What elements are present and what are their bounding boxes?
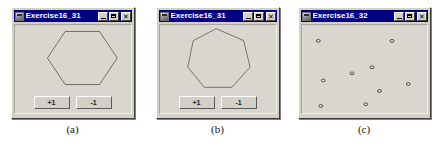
figure-row: Exercise16_31 ✕ [0, 0, 438, 148]
titlebar-a: Exercise16_31 ✕ [14, 10, 132, 22]
minimize-icon [397, 18, 402, 19]
scatter-point-group [316, 39, 410, 107]
java-coffee-icon [302, 12, 311, 21]
scatter-point [321, 79, 325, 82]
minimize-icon [101, 18, 106, 19]
scatter-point [406, 83, 410, 86]
close-icon: ✕ [418, 13, 426, 20]
scatter-canvas-c [302, 25, 427, 113]
java-coffee-icon [15, 12, 24, 21]
window-controls-a: ✕ [98, 12, 131, 21]
scatter-svg [302, 25, 427, 113]
titlebar-c: Exercise16_32 ✕ [301, 10, 428, 22]
increase-sides-button-a[interactable]: +1 [34, 96, 70, 109]
scatter-point [316, 39, 320, 42]
polygon-canvas-b [160, 25, 276, 91]
scatter-point [350, 72, 354, 75]
minimize-icon [246, 18, 251, 19]
button-bar-a: +1 -1 [15, 93, 131, 111]
minimize-button-c[interactable] [394, 12, 404, 21]
window-title-c: Exercise16_32 [313, 10, 394, 22]
heptagon-shape [187, 29, 249, 88]
maximize-icon [256, 14, 261, 18]
button-bar-b: +1 -1 [160, 93, 276, 111]
caption-c: (c) [358, 123, 370, 135]
decrease-sides-button-a[interactable]: -1 [76, 96, 112, 109]
window-frame-b: Exercise16_31 ✕ [156, 7, 280, 119]
increase-sides-button-b[interactable]: +1 [179, 96, 215, 109]
scatter-point [318, 105, 322, 108]
scatter-point [370, 66, 374, 69]
maximize-button-b[interactable] [254, 12, 264, 21]
maximize-button-a[interactable] [109, 12, 119, 21]
window-title-a: Exercise16_31 [26, 10, 98, 22]
scatter-point [377, 90, 381, 93]
window-controls-c: ✕ [394, 12, 427, 21]
window-frame-a: Exercise16_31 ✕ [11, 7, 135, 119]
polygon-canvas-a [15, 25, 131, 91]
scatter-point [390, 39, 394, 42]
window-controls-b: ✕ [243, 12, 276, 21]
close-button-a[interactable]: ✕ [121, 12, 131, 21]
window-title-b: Exercise16_31 [171, 10, 243, 22]
window-frame-c: Exercise16_32 ✕ [298, 7, 431, 119]
client-area-a: +1 -1 [14, 24, 132, 114]
decrease-sides-button-b[interactable]: -1 [221, 96, 257, 109]
maximize-button-c[interactable] [405, 12, 415, 21]
figure-b: Exercise16_31 ✕ [145, 0, 290, 135]
scatter-point [363, 103, 367, 106]
caption-b: (b) [211, 123, 224, 135]
close-button-b[interactable]: ✕ [266, 12, 276, 21]
figure-c: Exercise16_32 ✕ [290, 0, 438, 135]
client-area-b: +1 -1 [159, 24, 277, 114]
close-button-c[interactable]: ✕ [417, 12, 427, 21]
java-coffee-icon [160, 12, 169, 21]
caption-a: (a) [66, 123, 78, 135]
maximize-icon [111, 14, 116, 18]
maximize-icon [407, 14, 412, 18]
heptagon-svg [160, 25, 276, 91]
client-area-c [301, 24, 428, 114]
hexagon-svg [15, 25, 131, 91]
figure-a: Exercise16_31 ✕ [0, 0, 145, 135]
close-icon: ✕ [122, 13, 130, 20]
titlebar-b: Exercise16_31 ✕ [159, 10, 277, 22]
hexagon-shape [47, 31, 117, 84]
close-icon: ✕ [267, 13, 275, 20]
minimize-button-b[interactable] [243, 12, 253, 21]
minimize-button-a[interactable] [98, 12, 108, 21]
